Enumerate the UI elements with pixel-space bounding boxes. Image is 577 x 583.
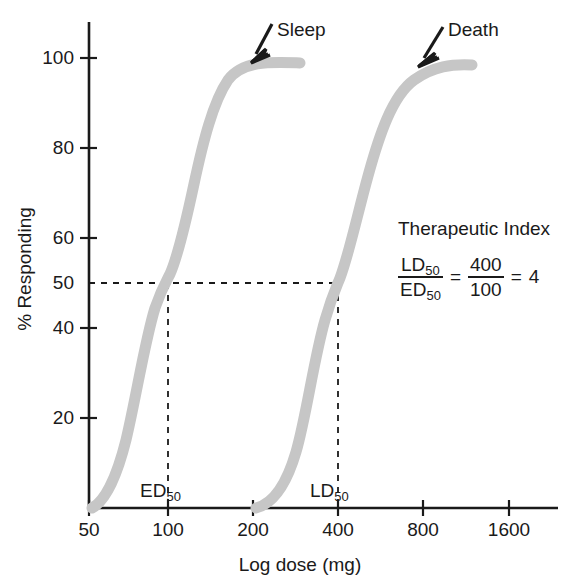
x-axis-title: Log dose (mg)	[180, 555, 420, 574]
therapeutic-index-result: 4	[529, 266, 540, 288]
fraction-numerator-400: 400	[468, 254, 504, 276]
fraction-400-over-100: 400 100	[468, 254, 504, 300]
ld50-marker-main: LD	[310, 480, 334, 501]
x-tick-label-100: 100	[138, 520, 198, 539]
x-tick-label-400: 400	[308, 520, 368, 539]
fraction-denominator-ed50: ED50	[398, 278, 443, 300]
ed50-sub: 50	[426, 288, 440, 303]
y-axis-title: % Responding	[14, 169, 36, 369]
ld50-sub: 50	[425, 263, 439, 278]
therapeutic-index-formula: LD50 ED50 = 400 100 = 4	[398, 254, 577, 300]
ld50-marker-sub: 50	[334, 489, 348, 504]
reference-lines	[89, 283, 340, 508]
ed50-main: ED	[400, 279, 426, 300]
x-tick-label-1600: 1600	[477, 520, 541, 539]
therapeutic-index-chart: 100 80 60 50 40 20 50 100 200 400 800 16…	[0, 0, 577, 583]
ed50-marker-main: ED	[140, 480, 166, 501]
therapeutic-index-title: Therapeutic Index	[398, 218, 577, 240]
x-tick-label-800: 800	[393, 520, 453, 539]
fraction-denominator-100: 100	[468, 278, 504, 300]
x-tick-label-50: 50	[59, 520, 119, 539]
curve-label-sleep: Sleep	[277, 20, 326, 39]
therapeutic-index-block: Therapeutic Index LD50 ED50 = 400 100 = …	[398, 218, 577, 300]
x-tick-label-200: 200	[223, 520, 283, 539]
ed50-marker-label: ED50	[140, 481, 181, 500]
curve-sleep	[92, 62, 300, 508]
ld50-main: LD	[401, 254, 425, 275]
ed50-marker-sub: 50	[166, 489, 180, 504]
equals-sign-1: =	[450, 266, 461, 288]
y-axis-title-wrap: % Responding	[0, 0, 40, 583]
fraction-numerator-ld50: LD50	[399, 254, 442, 276]
curve-label-death: Death	[448, 20, 499, 39]
arrow-death-icon	[418, 27, 443, 67]
fraction-ld50-over-ed50: LD50 ED50	[398, 254, 443, 300]
equals-sign-2: =	[511, 266, 522, 288]
arrow-sleep-icon	[251, 24, 272, 63]
ld50-marker-label: LD50	[310, 481, 349, 500]
